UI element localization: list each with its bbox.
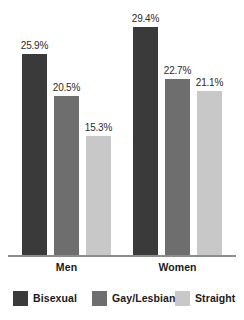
legend-item-gay-lesbian[interactable]: Gay/Lesbian — [92, 288, 176, 308]
legend-swatch-icon — [92, 291, 107, 306]
bar-women-bisexual: 29.4% — [133, 27, 158, 255]
legend-swatch-icon — [175, 291, 190, 306]
bar-value-label: 29.4% — [132, 13, 159, 24]
bar-women-gay-lesbian: 22.7% — [165, 79, 190, 255]
bar-value-label: 20.5% — [53, 82, 80, 93]
category-label-men: Men — [22, 261, 111, 273]
bar-men-straight: 15.3% — [86, 136, 111, 255]
bar-fill — [86, 136, 111, 255]
x-axis-line — [8, 255, 236, 257]
plot-area: 25.9%20.5%15.3%29.4%22.7%21.1% MenWomen — [0, 0, 244, 258]
bar-fill — [133, 27, 158, 255]
bar-men-bisexual: 25.9% — [22, 54, 47, 255]
bar-fill — [165, 79, 190, 255]
bar-chart: 25.9%20.5%15.3%29.4%22.7%21.1% MenWomen … — [0, 0, 244, 320]
bar-value-label: 21.1% — [196, 77, 223, 88]
bar-value-label: 25.9% — [21, 40, 48, 51]
legend-item-bisexual[interactable]: Bisexual — [13, 288, 77, 308]
bar-fill — [197, 91, 222, 255]
bar-value-label: 15.3% — [85, 122, 112, 133]
bar-fill — [54, 96, 79, 255]
bar-value-label: 22.7% — [164, 65, 191, 76]
bar-women-straight: 21.1% — [197, 91, 222, 255]
bar-fill — [22, 54, 47, 255]
bar-men-gay-lesbian: 20.5% — [54, 96, 79, 255]
legend-swatch-icon — [13, 291, 28, 306]
legend-label: Straight — [195, 292, 235, 304]
legend-label: Gay/Lesbian — [112, 292, 176, 304]
category-label-women: Women — [133, 261, 222, 273]
legend-item-straight[interactable]: Straight — [175, 288, 235, 308]
legend-label: Bisexual — [33, 292, 77, 304]
chart-legend: BisexualGay/LesbianStraight — [0, 288, 244, 314]
